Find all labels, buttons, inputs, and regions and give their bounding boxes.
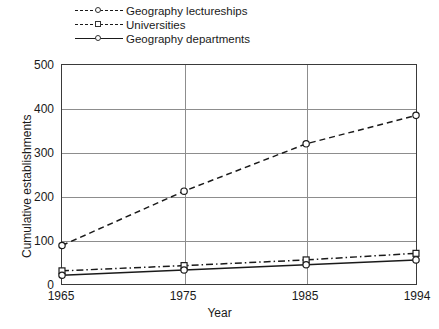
legend-item-geography-lectureships: Geography lectureships <box>75 4 415 18</box>
legend-key-dashed-circle <box>75 4 123 18</box>
data-point-marker <box>59 242 65 248</box>
plot-area <box>61 64 417 285</box>
legend-label-geography-lectureships: Geography lectureships <box>126 4 247 18</box>
y-tick-label-500: 500 <box>0 58 54 72</box>
series-line-0 <box>62 115 416 245</box>
data-point-marker <box>303 262 309 268</box>
legend-item-universities: Universities <box>75 18 415 32</box>
data-point-marker <box>413 257 419 263</box>
circle-marker-icon <box>95 7 101 13</box>
y-axis-title: Cumulative establishments <box>20 115 34 258</box>
data-point-marker <box>303 141 309 147</box>
circle-marker-icon <box>95 35 101 41</box>
x-tick-label-1965: 1965 <box>31 289 91 303</box>
legend-item-geography-departments: Geography departments <box>75 32 415 46</box>
square-marker-icon <box>95 21 101 27</box>
data-point-marker <box>413 112 419 118</box>
data-point-marker <box>181 267 187 273</box>
line-chart-figure: Geography lectureships Universities Geog… <box>0 0 439 329</box>
data-point-marker <box>413 250 419 256</box>
legend-label-geography-departments: Geography departments <box>126 32 250 46</box>
series-line-2 <box>62 260 416 275</box>
legend-key-dashdot-square <box>75 18 123 32</box>
legend-label-universities: Universities <box>126 18 185 32</box>
x-tick-label-1985: 1985 <box>275 289 335 303</box>
data-point-marker <box>59 272 65 278</box>
data-point-marker <box>181 188 187 194</box>
legend-key-solid-circle <box>75 32 123 46</box>
series-plot-layer <box>62 65 416 284</box>
x-axis-title: Year <box>0 306 439 320</box>
chart-legend: Geography lectureships Universities Geog… <box>75 4 415 46</box>
x-tick-label-1975: 1975 <box>153 289 213 303</box>
x-tick-label-1994: 1994 <box>387 289 439 303</box>
